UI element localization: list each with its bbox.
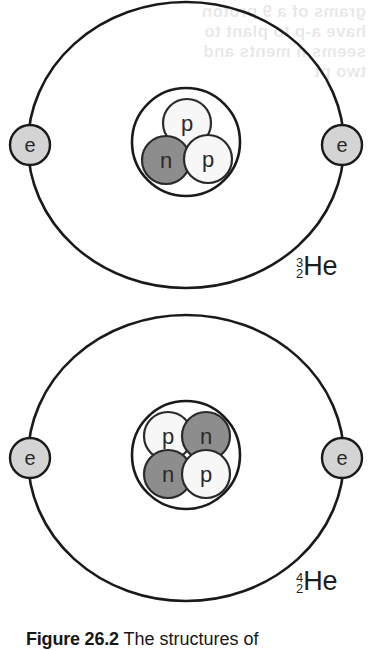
proton-label: p <box>202 147 214 172</box>
electron-label: e <box>24 134 35 156</box>
electron-he3-left: e <box>10 125 50 165</box>
atom-diagram-he4: p n n p e e <box>10 315 362 601</box>
electron-he3-right: e <box>322 125 362 165</box>
isotope-numbers-he3: 3 2 <box>296 257 303 279</box>
neutron-label: n <box>162 462 174 487</box>
figure-caption-text: The structures of <box>119 629 259 649</box>
proton-label: p <box>200 462 212 487</box>
neutron-label: n <box>160 148 172 173</box>
atomic-number-he4: 2 <box>296 583 303 594</box>
nucleon-proton-he4-2: p <box>182 450 230 498</box>
electron-he4-right: e <box>322 438 362 478</box>
electron-label: e <box>24 447 35 469</box>
electron-he4-left: e <box>10 438 50 478</box>
nucleon-proton-he3-2: p <box>184 135 232 183</box>
neutron-label: n <box>200 424 212 449</box>
isotope-label-he3: 3 2 He <box>296 253 337 280</box>
nucleus-boundary-he4 <box>132 401 240 509</box>
electron-label: e <box>336 447 347 469</box>
element-symbol-he3: He <box>303 253 337 280</box>
atom-diagram-he3: p n p e e <box>10 2 362 288</box>
atomic-number-he3: 2 <box>296 268 303 279</box>
figure-caption-number: Figure 26.2 <box>26 629 119 649</box>
isotope-label-he4: 4 2 He <box>296 568 337 595</box>
proton-label: p <box>162 424 174 449</box>
electron-label: e <box>336 134 347 156</box>
figure-caption: Figure 26.2 The structures of <box>26 629 373 650</box>
element-symbol-he4: He <box>303 568 337 595</box>
nucleon-neutron-he3-1: n <box>142 136 190 184</box>
proton-label: p <box>181 111 193 136</box>
isotope-numbers-he4: 4 2 <box>296 572 303 594</box>
